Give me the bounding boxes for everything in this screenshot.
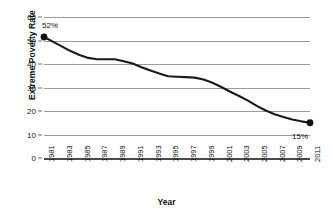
y-tick-mark-50 — [38, 40, 42, 41]
y-tick-label-10: 10 — [14, 130, 36, 139]
y-tick-mark-20 — [38, 111, 42, 112]
x-tick-label-2011: 2011 — [313, 146, 322, 162]
y-tick-label-20: 20 — [14, 107, 36, 116]
x-tick-label-1991: 1991 — [136, 145, 145, 162]
poverty-rate-line-chart: Extreme Poverty Rate 0102030405060 19811… — [0, 0, 333, 216]
y-tick-label-40: 40 — [14, 60, 36, 69]
x-tick-label-1987: 1987 — [100, 145, 109, 162]
series-svg — [44, 17, 310, 158]
plot-area — [44, 17, 310, 158]
y-tick-mark-60 — [38, 17, 42, 18]
x-tick-label-1985: 1985 — [83, 145, 92, 162]
y-tick-label-30: 30 — [14, 83, 36, 92]
x-tick-label-2009: 2009 — [295, 145, 304, 162]
y-tick-mark-30 — [38, 87, 42, 88]
endpoint-markers — [41, 34, 314, 127]
x-tick-label-1993: 1993 — [154, 145, 163, 162]
x-tick-label-1983: 1983 — [65, 145, 74, 162]
x-axis-title: Year — [0, 197, 333, 207]
y-tick-label-0: 0 — [14, 154, 36, 163]
y-tick-label-60: 60 — [14, 13, 36, 22]
y-tick-mark-40 — [38, 64, 42, 65]
y-tick-label-50: 50 — [14, 36, 36, 45]
extreme-poverty-rate-line — [44, 37, 310, 123]
x-tick-label-2007: 2007 — [278, 145, 287, 162]
x-tick-label-2003: 2003 — [242, 145, 251, 162]
start-value-label: 52% — [42, 21, 58, 30]
end-point-marker — [307, 119, 314, 126]
x-tick-label-1995: 1995 — [171, 145, 180, 162]
x-tick-label-1999: 1999 — [207, 145, 216, 162]
x-tick-label-2005: 2005 — [260, 145, 269, 162]
x-tick-label-1997: 1997 — [189, 145, 198, 162]
end-value-label: 15% — [292, 132, 308, 141]
x-tick-label-2001: 2001 — [225, 145, 234, 162]
y-tick-mark-0 — [38, 158, 42, 159]
x-tick-label-1989: 1989 — [118, 145, 127, 162]
y-tick-mark-10 — [38, 134, 42, 135]
x-tick-label-1981: 1981 — [47, 145, 56, 162]
